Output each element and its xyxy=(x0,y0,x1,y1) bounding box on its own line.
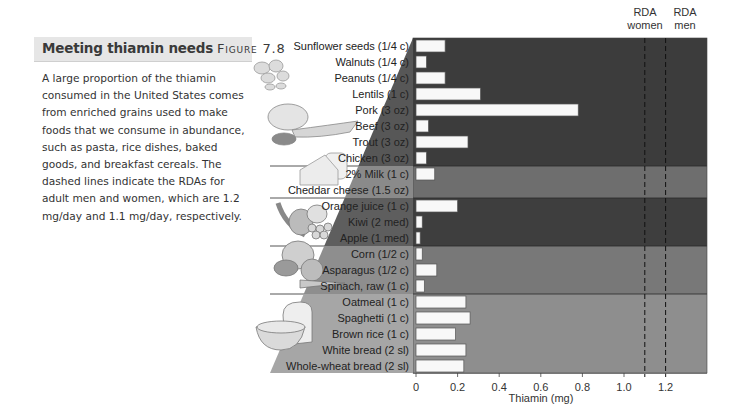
bar xyxy=(416,360,464,372)
meat-fish-icon xyxy=(268,104,358,145)
bar xyxy=(416,168,435,180)
category-label: Trout (3 oz) xyxy=(353,136,409,148)
category-label: Beef (3 oz) xyxy=(355,120,409,132)
nuts-icon xyxy=(254,60,289,90)
category-label: Lentils (1 c) xyxy=(352,88,409,100)
x-axis-title: Thiamin (mg) xyxy=(509,392,574,404)
category-label: Peanuts (1/4 c) xyxy=(334,72,409,84)
bar xyxy=(416,232,420,244)
category-label: Kiwi (2 med) xyxy=(348,216,409,228)
x-tick-label: 0 xyxy=(413,381,419,393)
bar xyxy=(416,136,468,148)
rda-men-label-1: RDA xyxy=(673,6,697,18)
category-label: Asparagus (1/2 c) xyxy=(322,264,409,276)
thiamin-bar-chart: Sunflower seeds (1/4 c)Walnuts (1/4 c)Pe… xyxy=(0,0,736,410)
x-tick-label: 0.8 xyxy=(575,381,590,393)
rda-men-label-2: men xyxy=(674,19,695,31)
bar xyxy=(416,248,422,260)
bar xyxy=(416,104,578,116)
category-label: Spinach, raw (1 c) xyxy=(320,280,409,292)
category-label: Walnuts (1/4 c) xyxy=(335,56,409,68)
x-tick-label: 0.4 xyxy=(492,381,507,393)
bar xyxy=(416,328,456,340)
x-tick-label: 1.0 xyxy=(616,381,631,393)
category-label: Orange juice (1 c) xyxy=(322,200,409,212)
category-label: Oatmeal (1 c) xyxy=(342,296,409,308)
bar xyxy=(416,152,426,164)
category-label: Pork (3 oz) xyxy=(355,104,409,116)
category-label: 2% Milk (1 c) xyxy=(345,168,409,180)
category-label: Corn (1/2 c) xyxy=(351,248,409,260)
category-label: Whole-wheat bread (2 sl) xyxy=(286,360,409,372)
x-axis: 00.20.40.60.81.01.2 xyxy=(413,373,673,393)
bar xyxy=(416,344,466,356)
x-tick-label: 0.2 xyxy=(450,381,465,393)
bar xyxy=(416,72,445,84)
bar xyxy=(416,88,480,100)
category-label: Cheddar cheese (1.5 oz) xyxy=(288,184,409,196)
bar xyxy=(416,312,470,324)
category-label: Brown rice (1 c) xyxy=(332,328,409,340)
bar xyxy=(416,200,458,212)
category-label: Chicken (3 oz) xyxy=(338,152,409,164)
bar xyxy=(416,120,428,132)
category-label: Apple (1 med) xyxy=(340,232,409,244)
bar xyxy=(416,264,437,276)
rda-women-label-2: women xyxy=(626,19,662,31)
bar xyxy=(416,280,424,292)
bar xyxy=(416,40,445,52)
category-label: Spaghetti (1 c) xyxy=(337,312,409,324)
bar xyxy=(416,216,422,228)
bar xyxy=(416,296,466,308)
band-3 xyxy=(413,246,707,294)
bar xyxy=(416,56,426,68)
category-label: White bread (2 sl) xyxy=(322,344,409,356)
x-tick-label: 1.2 xyxy=(658,381,673,393)
rda-women-label-1: RDA xyxy=(633,6,657,18)
category-label: Sunflower seeds (1/4 c) xyxy=(293,40,409,52)
band-1 xyxy=(413,166,707,198)
grains-icon xyxy=(256,302,312,350)
